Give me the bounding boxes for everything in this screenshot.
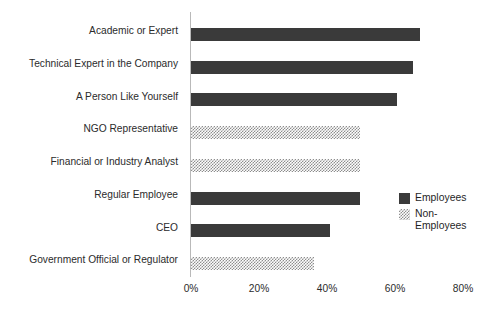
category-label: CEO [0,221,178,234]
legend-swatch-icon [399,193,410,204]
category-label: Government Official or Regulator [0,253,178,266]
plot-area [190,12,490,277]
horizontal-bar-chart: Academic or Expert Technical Expert in t… [0,0,500,315]
category-label: Academic or Expert [0,24,178,37]
legend-entry-employees: Employees [399,192,495,204]
bar-technical-expert-in-the-company [191,61,413,74]
value-tick-label: 60% [385,283,405,294]
category-label: A Person Like Yourself [0,90,178,103]
category-label: Financial or Industry Analyst [0,155,178,168]
value-tick-label: 20% [249,283,269,294]
bar-academic-or-expert [191,28,420,41]
bar-financial-or-industry-analyst [191,159,360,172]
bar-a-person-like-yourself [191,93,397,106]
legend-label: Employees [415,192,485,204]
value-axis-line [190,12,191,277]
category-axis: Academic or Expert Technical Expert in t… [0,0,184,277]
bar-ceo [191,224,330,237]
legend-label: Non-Employees [415,208,485,232]
category-label: Technical Expert in the Company [0,57,178,70]
category-label: Regular Employee [0,188,178,201]
value-axis: 0% 20% 40% 60% 80% [190,283,500,299]
bar-government-official-or-regulator [191,257,314,270]
bar-regular-employee [191,192,360,205]
bar-ngo-representative [191,126,360,139]
value-tick-label: 0% [184,283,199,294]
legend-entry-non-employees: Non-Employees [399,208,495,232]
value-tick-label: 80% [453,283,473,294]
category-label: NGO Representative [0,122,178,135]
chart-legend: Employees Non-Employees [399,192,495,236]
value-tick-label: 40% [317,283,337,294]
legend-swatch-icon [399,209,410,220]
